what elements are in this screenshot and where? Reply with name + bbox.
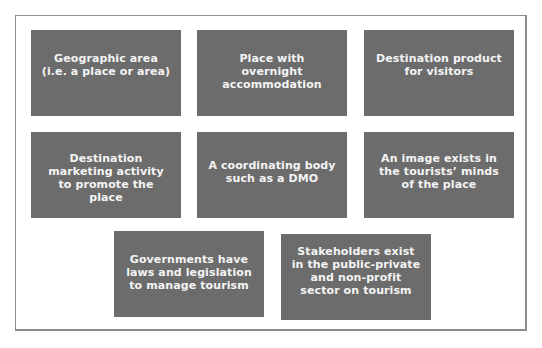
box-label: Stakeholders exist in the public-private…: [291, 245, 421, 297]
box-destination-product: Destination product for visitors: [364, 30, 514, 116]
box-label: A coordinating body such as a DMO: [207, 159, 337, 185]
box-label: An image exists in the tourists’ minds o…: [374, 152, 504, 191]
box-label: Geographic area (i.e. a place or area): [41, 52, 171, 78]
box-label: Destination product for visitors: [374, 52, 504, 78]
box-stakeholders: Stakeholders exist in the public-private…: [281, 234, 431, 320]
box-label: Destination marketing activity to promot…: [41, 152, 171, 204]
box-label: Governments have laws and legislation to…: [124, 253, 254, 292]
box-geographic-area: Geographic area (i.e. a place or area): [31, 30, 181, 116]
box-destination-marketing: Destination marketing activity to promot…: [31, 132, 181, 218]
box-label: Place with overnight accommodation: [207, 52, 337, 91]
box-government-laws: Governments have laws and legislation to…: [114, 231, 264, 317]
box-overnight-accommodation: Place with overnight accommodation: [197, 30, 347, 116]
box-coordinating-body: A coordinating body such as a DMO: [197, 132, 347, 218]
box-tourist-image: An image exists in the tourists’ minds o…: [364, 132, 514, 218]
